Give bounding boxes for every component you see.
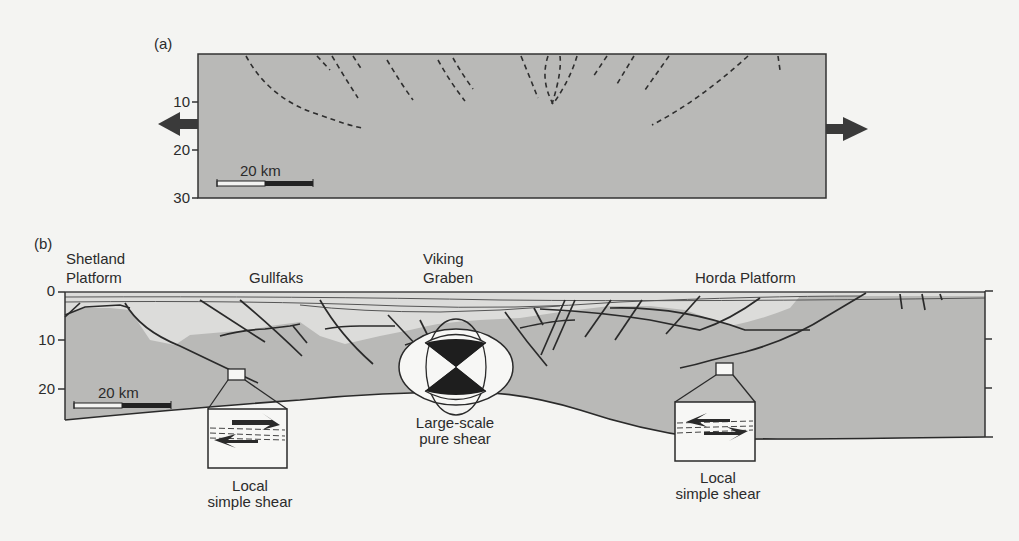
- panel-a-label: (a): [154, 36, 172, 52]
- panel-a-scale-label: 20 km: [240, 163, 281, 179]
- panel-b-right-axis: [985, 291, 993, 437]
- caption-right-line2: simple shear: [668, 486, 768, 502]
- panel-a-tick-30: 30: [160, 190, 190, 206]
- geology-figure: (a) 10 20 30 20 km (b) Shetland Platform…: [0, 0, 1019, 541]
- place-viking-line1: Viking: [423, 251, 464, 267]
- figure-canvas: [0, 0, 1019, 541]
- place-shetland-line1: Shetland: [66, 251, 125, 267]
- panel-a-depth-axis: [192, 102, 198, 198]
- panel-b-depth-axis: [58, 292, 65, 420]
- caption-left: Local simple shear: [205, 478, 295, 510]
- caption-right: Local simple shear: [668, 470, 768, 502]
- panel-b-tick-0: 0: [25, 283, 55, 299]
- place-horda-platform: Horda Platform: [695, 270, 796, 286]
- caption-center-line2: pure shear: [400, 431, 510, 447]
- caption-right-line1: Local: [668, 470, 768, 486]
- place-shetland-line2: Platform: [66, 270, 122, 286]
- panel-b-scale-label: 20 km: [98, 385, 139, 401]
- panel-b-tick-10: 10: [25, 332, 55, 348]
- caption-center: Large-scale pure shear: [400, 415, 510, 447]
- extension-arrow-left-icon: [158, 112, 198, 136]
- caption-center-line1: Large-scale: [400, 415, 510, 431]
- caption-left-line2: simple shear: [205, 494, 295, 510]
- panel-b-tick-20: 20: [25, 381, 55, 397]
- panel-b: [58, 291, 993, 468]
- panel-a-tick-20: 20: [160, 142, 190, 158]
- panel-a-crust-block: [198, 54, 826, 198]
- extension-arrow-right-icon: [826, 117, 868, 141]
- panel-a-tick-10: 10: [160, 94, 190, 110]
- place-viking-line2: Graben: [423, 270, 473, 286]
- place-gullfaks: Gullfaks: [249, 270, 303, 286]
- caption-left-line1: Local: [205, 478, 295, 494]
- panel-b-label: (b): [34, 236, 52, 252]
